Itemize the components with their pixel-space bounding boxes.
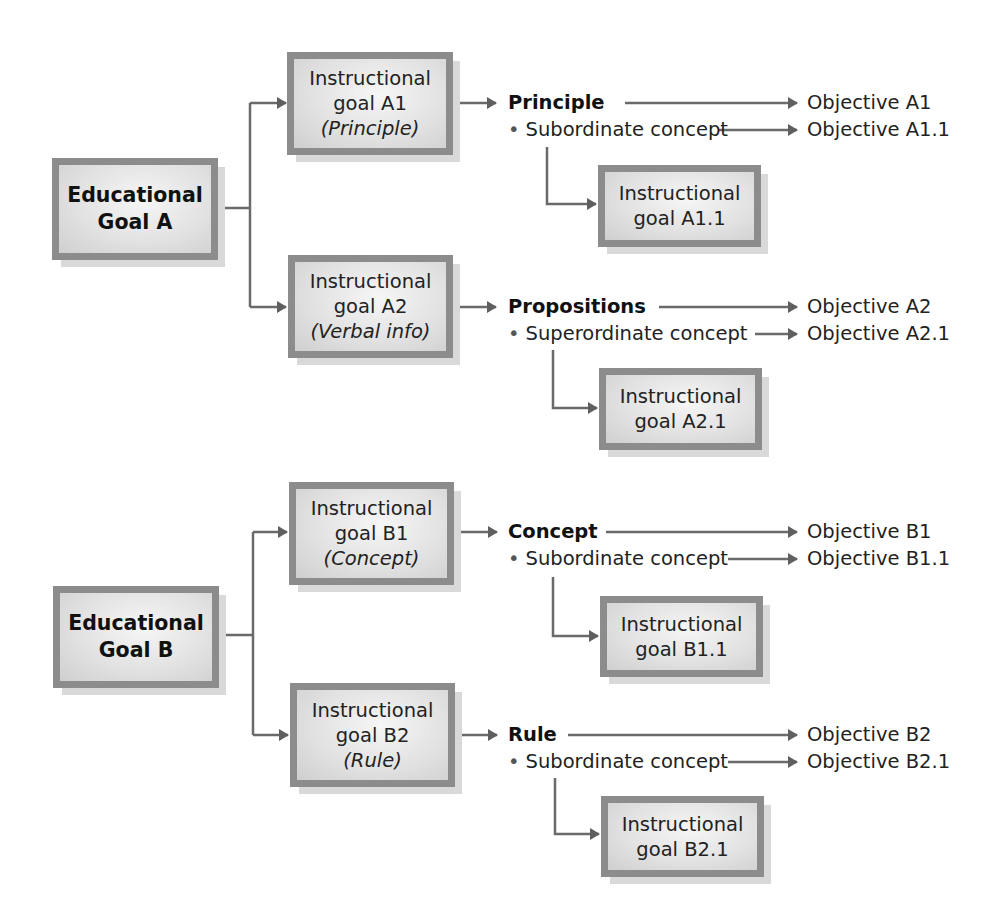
instructional-goal-a1-line1: Instructional [309,66,431,91]
instructional-goal-b1-1-line2: goal B1.1 [635,637,727,662]
content-label-propositions: Propositions [508,295,646,319]
objective-b2-1: Objective B2.1 [807,750,950,774]
objective-b2: Objective B2 [807,723,931,747]
instructional-goal-a2-1-line1: Instructional [620,384,742,409]
subitem-a2: •Superordinate concept [508,322,748,346]
instructional-goal-b1-type: (Concept) [324,546,420,571]
subitem-a1-text: Subordinate concept [526,118,728,141]
instructional-goal-b2-1-line2: goal B2.1 [636,837,728,862]
goal-hierarchy-diagram: Educational Goal A Instructional goal A1… [0,0,992,922]
instructional-goal-a2-line2: goal A2 [334,294,408,319]
educational-goal-b-line2: Goal B [99,637,174,664]
instructional-goal-a1-line2: goal A1 [333,91,407,116]
instructional-goal-a1-1-box: Instructional goal A1.1 [598,165,761,247]
subitem-b2: •Subordinate concept [508,750,728,774]
bullet-icon: • [508,547,520,570]
objective-b1-1: Objective B1.1 [807,547,950,571]
educational-goal-b-line1: Educational [68,610,204,637]
objective-a1-1: Objective A1.1 [807,118,950,142]
instructional-goal-b2-line2: goal B2 [336,723,410,748]
instructional-goal-b1-1-box: Instructional goal B1.1 [600,596,763,677]
subitem-b1-text: Subordinate concept [526,547,728,570]
instructional-goal-b2-line1: Instructional [312,698,434,723]
bullet-icon: • [508,118,520,141]
instructional-goal-b1-1-line1: Instructional [621,612,743,637]
instructional-goal-b1-box: Instructional goal B1 (Concept) [289,482,454,585]
instructional-goal-a2-box: Instructional goal A2 (Verbal info) [288,255,453,358]
instructional-goal-b2-1-box: Instructional goal B2.1 [601,796,764,877]
bullet-icon: • [508,322,520,345]
content-label-principle: Principle [508,91,605,115]
instructional-goal-a1-1-line1: Instructional [619,181,741,206]
educational-goal-a-line2: Goal A [98,209,173,236]
educational-goal-b-box: Educational Goal B [53,586,219,688]
subitem-b2-text: Subordinate concept [526,750,728,773]
content-label-rule: Rule [508,723,557,747]
instructional-goal-a1-box: Instructional goal A1 (Principle) [287,52,453,155]
subitem-b1: •Subordinate concept [508,547,728,571]
objective-a2: Objective A2 [807,295,931,319]
instructional-goal-a2-1-line2: goal A2.1 [634,409,726,434]
instructional-goal-a2-type: (Verbal info) [311,319,431,344]
instructional-goal-b2-type: (Rule) [343,748,402,773]
objective-a2-1: Objective A2.1 [807,322,950,346]
educational-goal-a-box: Educational Goal A [52,158,218,260]
objective-a1: Objective A1 [807,91,931,115]
instructional-goal-b2-1-line1: Instructional [622,812,744,837]
instructional-goal-b1-line1: Instructional [311,496,433,521]
instructional-goal-a1-type: (Principle) [321,116,420,141]
subitem-a2-text: Superordinate concept [526,322,748,345]
educational-goal-a-line1: Educational [67,182,203,209]
instructional-goal-b2-box: Instructional goal B2 (Rule) [290,683,455,787]
instructional-goal-a1-1-line2: goal A1.1 [633,206,725,231]
objective-b1: Objective B1 [807,520,931,544]
bullet-icon: • [508,750,520,773]
content-label-concept: Concept [508,520,598,544]
instructional-goal-a2-1-box: Instructional goal A2.1 [599,368,762,450]
subitem-a1: •Subordinate concept [508,118,728,142]
instructional-goal-b1-line2: goal B1 [335,521,409,546]
instructional-goal-a2-line1: Instructional [310,269,432,294]
